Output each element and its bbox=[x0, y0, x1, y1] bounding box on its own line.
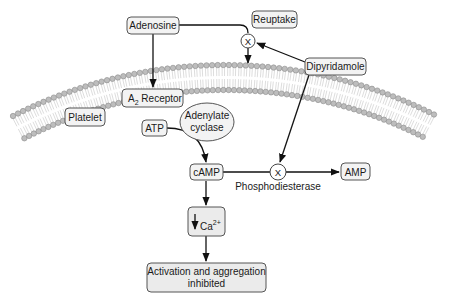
x-icon: X bbox=[275, 167, 282, 178]
node-reuptake: Reuptake bbox=[252, 11, 297, 28]
node-dipyridamole: Dipyridamole bbox=[305, 58, 366, 75]
reuptake-block-marker: X bbox=[241, 34, 255, 48]
svg-text:cyclase: cyclase bbox=[190, 122, 224, 133]
svg-text:ATP: ATP bbox=[145, 123, 164, 134]
node-atp: ATP bbox=[142, 120, 167, 136]
pde-block-marker: X bbox=[270, 164, 286, 180]
svg-text:Platelet: Platelet bbox=[68, 112, 102, 123]
edge-dipyridamole-to-reuptake-block bbox=[257, 43, 305, 62]
svg-text:Reuptake: Reuptake bbox=[253, 14, 296, 25]
node-adenosine: Adenosine bbox=[127, 17, 179, 34]
label-phosphodiesterase: Phosphodiesterase bbox=[235, 181, 321, 192]
node-camp: cAMP bbox=[190, 164, 223, 180]
svg-text:AMP: AMP bbox=[345, 167, 367, 178]
node-adenylate-cyclase: Adenylate cyclase bbox=[180, 103, 234, 141]
x-icon: X bbox=[245, 36, 252, 47]
diagram-canvas: Adenosine Reuptake X Dipyridamole A2 Rec… bbox=[0, 0, 452, 304]
svg-text:Adenosine: Adenosine bbox=[129, 20, 177, 31]
node-calcium-decrease: Ca2+ bbox=[188, 207, 225, 236]
svg-text:Adenylate: Adenylate bbox=[185, 110, 230, 121]
node-amp: AMP bbox=[341, 163, 370, 180]
node-platelet: Platelet bbox=[65, 108, 105, 126]
svg-text:Dipyridamole: Dipyridamole bbox=[306, 61, 365, 72]
node-outcome: Activation and aggregation inhibited bbox=[147, 263, 266, 292]
svg-text:inhibited: inhibited bbox=[188, 278, 225, 289]
svg-text:cAMP: cAMP bbox=[193, 167, 220, 178]
svg-text:Activation and aggregation: Activation and aggregation bbox=[147, 266, 265, 277]
node-a2-receptor: A2 Receptor bbox=[122, 89, 183, 107]
edge-adenosine-to-reuptake bbox=[179, 25, 248, 33]
